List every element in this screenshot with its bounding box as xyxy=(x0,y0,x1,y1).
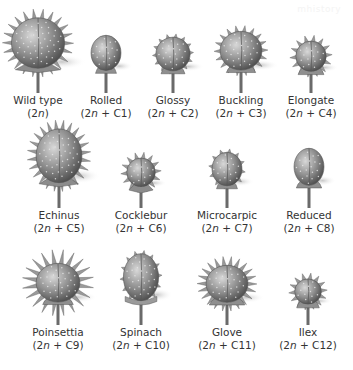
karyotype-label: (2n + C5) xyxy=(33,222,84,235)
capsule-item-poinsettia: Poinsettia(2n + C9) xyxy=(13,258,103,351)
capsule-item-reduced: Reduced(2n + C8) xyxy=(264,143,353,234)
capsule-illustration xyxy=(23,258,93,326)
capsule-illustration xyxy=(207,26,275,94)
karyotype-label: (2n + C1) xyxy=(80,107,131,120)
capsule-illustration xyxy=(114,153,168,209)
mutant-name-label: Echinus xyxy=(39,209,80,222)
mutant-name-label: Ilex xyxy=(299,326,318,339)
karyotype-label: (2n + C12) xyxy=(279,339,337,352)
mutant-name-label: Reduced xyxy=(286,209,332,222)
capsule-item-cocklebur: Cocklebur(2n + C6) xyxy=(96,153,186,234)
capsule-item-glove: Glove(2n + C11) xyxy=(182,260,272,351)
watermark: mhistory xyxy=(297,4,341,14)
capsule-item-elongate: Elongate(2n + C4) xyxy=(266,36,353,119)
mutant-name-label: Spinach xyxy=(120,326,162,339)
capsule-illustration xyxy=(280,143,338,209)
karyotype-label: (2n) xyxy=(27,107,49,120)
mutant-name-label: Cocklebur xyxy=(115,209,168,222)
capsule-illustration xyxy=(282,274,334,326)
capsule-illustration xyxy=(283,36,339,94)
mutant-name-label: Buckling xyxy=(219,94,264,107)
karyotype-label: (2n + C10) xyxy=(112,339,170,352)
capsule-illustration xyxy=(21,123,97,209)
capsule-illustration xyxy=(77,30,135,94)
karyotype-label: (2n + C9) xyxy=(32,339,83,352)
mutant-name-label: Glove xyxy=(212,326,242,339)
capsule-illustration xyxy=(198,147,256,209)
mutant-name-label: Rolled xyxy=(90,94,122,107)
capsule-illustration xyxy=(109,248,173,326)
capsule-item-microcarpic: Microcarpic(2n + C7) xyxy=(182,147,272,234)
karyotype-label: (2n + C8) xyxy=(283,222,334,235)
mutant-name-label: Wild type xyxy=(13,94,62,107)
karyotype-label: (2n + C4) xyxy=(285,107,336,120)
mutant-name-label: Poinsettia xyxy=(32,326,83,339)
mutant-name-label: Elongate xyxy=(288,94,334,107)
karyotype-label: (2n + C3) xyxy=(215,107,266,120)
karyotype-label: (2n + C11) xyxy=(198,339,256,352)
mutant-name-label: Glossy xyxy=(156,94,191,107)
karyotype-label: (2n + C6) xyxy=(115,222,166,235)
capsule-item-echinus: Echinus(2n + C5) xyxy=(14,123,104,234)
mutant-name-label: Microcarpic xyxy=(197,209,257,222)
capsule-item-spinach: Spinach(2n + C10) xyxy=(96,248,186,351)
karyotype-label: (2n + C7) xyxy=(201,222,252,235)
capsule-illustration xyxy=(143,32,203,94)
capsule-illustration xyxy=(193,260,261,326)
karyotype-label: (2n + C2) xyxy=(147,107,198,120)
capsule-item-ilex: Ilex(2n + C12) xyxy=(263,274,353,351)
